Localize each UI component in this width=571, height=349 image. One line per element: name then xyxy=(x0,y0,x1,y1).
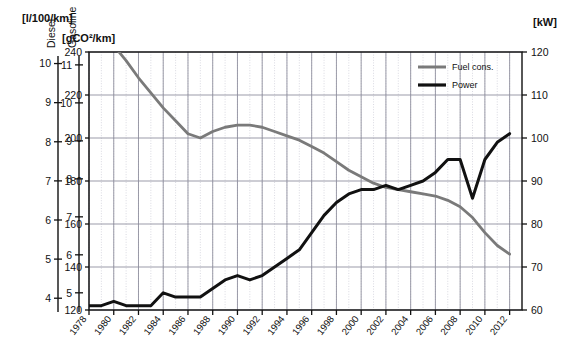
tick-label-year: 1996 xyxy=(290,313,312,336)
tick-label-gasoline: 8 xyxy=(66,173,72,185)
unit-title-kw: [kW] xyxy=(533,16,557,28)
tick-label-gasoline: 11 xyxy=(61,59,72,71)
tick-label-year: 1998 xyxy=(314,313,336,336)
tick-label-year: 2000 xyxy=(339,313,361,336)
tick-label-diesel: 4 xyxy=(45,292,51,304)
tick-label-year: 1986 xyxy=(166,313,188,336)
tick-label-gasoline: 10 xyxy=(60,97,72,109)
tick-label-year: 2002 xyxy=(364,313,386,336)
tick-label-year: 2008 xyxy=(438,313,460,336)
tick-label-year: 1978 xyxy=(67,313,89,336)
legend-label-fuel-cons: Fuel cons. xyxy=(452,62,494,72)
tick-label-year: 1988 xyxy=(191,313,213,336)
tick-label-year: 2010 xyxy=(463,313,485,336)
tick-label-year: 1984 xyxy=(141,313,163,336)
chart-canvas: 2402202001801601401201201101009080706019… xyxy=(0,0,571,349)
tick-label-diesel: 7 xyxy=(45,175,51,187)
tick-label-gasoline: 9 xyxy=(66,135,72,147)
tick-label-year: 1992 xyxy=(240,313,262,336)
tick-label-gasoline: 6 xyxy=(66,249,72,261)
tick-label-diesel: 9 xyxy=(45,96,51,108)
tick-label-year: 2004 xyxy=(389,313,411,336)
tick-label-year: 1982 xyxy=(116,313,138,336)
unit-title-co2: [gCO²/km] xyxy=(62,32,116,44)
tick-label-gasoline: 7 xyxy=(66,211,72,223)
tick-label-diesel: 8 xyxy=(45,136,51,148)
tick-label-kw: 120 xyxy=(531,46,549,58)
tick-label-kw: 60 xyxy=(531,304,543,316)
tick-label-diesel: 10 xyxy=(39,57,51,69)
tick-label-kw: 70 xyxy=(531,261,543,273)
tick-label-diesel: 5 xyxy=(45,253,51,265)
tick-label-gasoline: 5 xyxy=(66,287,72,299)
chart-figure: 2402202001801601401201201101009080706019… xyxy=(0,0,571,349)
tick-label-kw: 100 xyxy=(531,132,549,144)
tick-label-year: 1994 xyxy=(265,313,287,336)
tick-label-year: 2012 xyxy=(487,313,509,336)
tick-label-year: 1980 xyxy=(92,313,114,336)
tick-label-diesel: 6 xyxy=(45,214,51,226)
tick-label-year: 2006 xyxy=(413,313,435,336)
unit-title-fuel: [l/100/km] xyxy=(22,12,73,24)
tick-label-kw: 80 xyxy=(531,218,543,230)
legend-label-power: Power xyxy=(452,80,478,90)
tick-label-kw: 90 xyxy=(531,175,543,187)
tick-label-year: 1990 xyxy=(215,313,237,336)
tick-label-kw: 110 xyxy=(531,89,548,101)
